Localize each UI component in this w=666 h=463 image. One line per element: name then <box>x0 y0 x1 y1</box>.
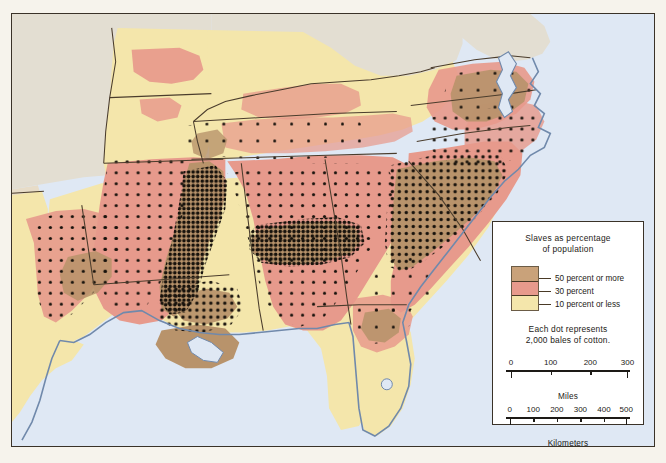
miles-bar <box>506 370 630 378</box>
leader-line-icon <box>539 278 551 279</box>
leader-line-icon <box>539 291 551 292</box>
scale-bar-kilometers: 0 100 200 300 400 500 Kilometers <box>499 405 637 448</box>
kilometers-tick-labels: 0 100 200 300 400 500 <box>506 405 630 415</box>
legend-key-labels: 50 percent or more 30 percent 10 percent… <box>539 266 637 309</box>
miles-tick-labels: 0 100 200 300 <box>506 358 630 368</box>
legend-title: Slaves as percentage of population <box>499 233 637 255</box>
dot-note-line2: 2,000 bales of cotton. <box>499 335 637 346</box>
dot-legend-note: Each dot represents 2,000 bales of cotto… <box>499 324 637 346</box>
kilometers-bar <box>506 417 630 425</box>
screenshot-root: Slaves as percentage of population 50 pe… <box>0 0 666 463</box>
legend-key-10: 10 percent or less <box>539 300 620 309</box>
leader-line-icon <box>539 304 551 305</box>
dot-note-line1: Each dot represents <box>499 324 637 335</box>
legend-key-30: 30 percent <box>539 287 594 296</box>
legend-key-50: 50 percent or more <box>539 274 624 283</box>
map-legend: Slaves as percentage of population 50 pe… <box>492 221 644 425</box>
scale-bar-miles: 0 100 200 300 Miles <box>499 358 637 401</box>
legend-key: 50 percent or more 30 percent 10 percent… <box>511 266 637 311</box>
legend-title-line1: Slaves as percentage <box>499 233 637 244</box>
legend-title-line2: of population <box>499 244 637 255</box>
legend-color-swatch <box>511 266 539 311</box>
lake-okeechobee <box>381 379 392 390</box>
kilometers-unit-label: Kilometers <box>506 439 630 448</box>
miles-unit-label: Miles <box>506 392 630 401</box>
